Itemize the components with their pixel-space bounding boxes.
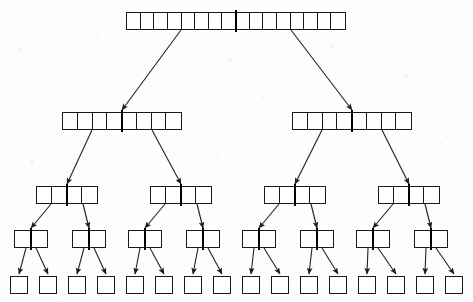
array-cell[interactable] — [323, 113, 338, 129]
array-cell[interactable] — [263, 13, 277, 29]
tree-node-n3e[interactable] — [242, 230, 276, 248]
array-cell[interactable] — [291, 13, 305, 29]
tree-node-n0[interactable] — [126, 12, 346, 30]
array-cell[interactable] — [357, 231, 373, 247]
array-cell[interactable] — [330, 277, 346, 293]
array-cell[interactable] — [415, 231, 431, 247]
array-cell[interactable] — [424, 187, 439, 203]
array-cell[interactable] — [396, 113, 411, 129]
array-cell[interactable] — [156, 277, 172, 293]
tree-node-n3g[interactable] — [356, 230, 390, 248]
array-cell[interactable] — [293, 113, 308, 129]
array-cell[interactable] — [373, 231, 389, 247]
tree-node-l11[interactable] — [329, 276, 347, 294]
array-cell[interactable] — [203, 231, 219, 247]
array-cell[interactable] — [168, 13, 182, 29]
array-cell[interactable] — [367, 113, 382, 129]
array-cell[interactable] — [67, 187, 82, 203]
tree-node-n3f[interactable] — [300, 230, 334, 248]
array-cell[interactable] — [152, 113, 167, 129]
array-cell[interactable] — [195, 13, 209, 29]
array-cell[interactable] — [69, 277, 85, 293]
array-cell[interactable] — [259, 231, 275, 247]
tree-node-l5[interactable] — [155, 276, 173, 294]
array-cell[interactable] — [236, 13, 250, 29]
tree-node-l12[interactable] — [358, 276, 376, 294]
array-cell[interactable] — [154, 13, 168, 29]
array-cell[interactable] — [331, 13, 345, 29]
array-cell[interactable] — [40, 277, 56, 293]
array-cell[interactable] — [301, 231, 317, 247]
tree-node-l10[interactable] — [300, 276, 318, 294]
array-cell[interactable] — [265, 187, 280, 203]
array-cell[interactable] — [145, 231, 161, 247]
tree-node-l2[interactable] — [68, 276, 86, 294]
array-cell[interactable] — [187, 231, 203, 247]
tree-node-n3d[interactable] — [186, 230, 220, 248]
array-cell[interactable] — [308, 113, 323, 129]
array-cell[interactable] — [446, 277, 462, 293]
array-cell[interactable] — [209, 13, 223, 29]
array-cell[interactable] — [352, 113, 367, 129]
array-cell[interactable] — [304, 13, 318, 29]
array-cell[interactable] — [301, 277, 317, 293]
array-cell[interactable] — [82, 187, 97, 203]
array-cell[interactable] — [127, 277, 143, 293]
array-cell[interactable] — [277, 13, 291, 29]
array-cell[interactable] — [15, 231, 31, 247]
tree-node-n3h[interactable] — [414, 230, 448, 248]
tree-node-n2c[interactable] — [264, 186, 326, 204]
tree-node-l1[interactable] — [39, 276, 57, 294]
array-cell[interactable] — [295, 187, 310, 203]
tree-node-l15[interactable] — [445, 276, 463, 294]
array-cell[interactable] — [89, 231, 105, 247]
array-cell[interactable] — [63, 113, 78, 129]
array-cell[interactable] — [388, 277, 404, 293]
array-cell[interactable] — [243, 277, 259, 293]
tree-node-l8[interactable] — [242, 276, 260, 294]
array-cell[interactable] — [243, 231, 259, 247]
array-cell[interactable] — [137, 113, 152, 129]
array-cell[interactable] — [310, 187, 325, 203]
array-cell[interactable] — [196, 187, 211, 203]
array-cell[interactable] — [166, 113, 181, 129]
tree-node-n3b[interactable] — [72, 230, 106, 248]
array-cell[interactable] — [78, 113, 93, 129]
array-cell[interactable] — [185, 277, 201, 293]
array-cell[interactable] — [318, 13, 332, 29]
tree-node-l3[interactable] — [97, 276, 115, 294]
tree-node-l14[interactable] — [416, 276, 434, 294]
array-cell[interactable] — [214, 277, 230, 293]
tree-node-l6[interactable] — [184, 276, 202, 294]
array-cell[interactable] — [409, 187, 424, 203]
tree-node-l4[interactable] — [126, 276, 144, 294]
tree-node-n1L[interactable] — [62, 112, 182, 130]
array-cell[interactable] — [417, 277, 433, 293]
array-cell[interactable] — [250, 13, 264, 29]
array-cell[interactable] — [272, 277, 288, 293]
array-cell[interactable] — [317, 231, 333, 247]
array-cell[interactable] — [73, 231, 89, 247]
array-cell[interactable] — [37, 187, 52, 203]
tree-node-l13[interactable] — [387, 276, 405, 294]
tree-node-n2d[interactable] — [378, 186, 440, 204]
array-cell[interactable] — [181, 187, 196, 203]
array-cell[interactable] — [141, 13, 155, 29]
array-cell[interactable] — [151, 187, 166, 203]
array-cell[interactable] — [431, 231, 447, 247]
tree-node-n2b[interactable] — [150, 186, 212, 204]
tree-node-n1R[interactable] — [292, 112, 412, 130]
tree-node-n3a[interactable] — [14, 230, 48, 248]
array-cell[interactable] — [382, 113, 397, 129]
array-cell[interactable] — [182, 13, 196, 29]
tree-node-l7[interactable] — [213, 276, 231, 294]
array-cell[interactable] — [379, 187, 394, 203]
tree-node-n3c[interactable] — [128, 230, 162, 248]
array-cell[interactable] — [129, 231, 145, 247]
tree-node-n2a[interactable] — [36, 186, 98, 204]
array-cell[interactable] — [11, 277, 27, 293]
tree-node-l9[interactable] — [271, 276, 289, 294]
array-cell[interactable] — [127, 13, 141, 29]
array-cell[interactable] — [98, 277, 114, 293]
tree-node-l0[interactable] — [10, 276, 28, 294]
